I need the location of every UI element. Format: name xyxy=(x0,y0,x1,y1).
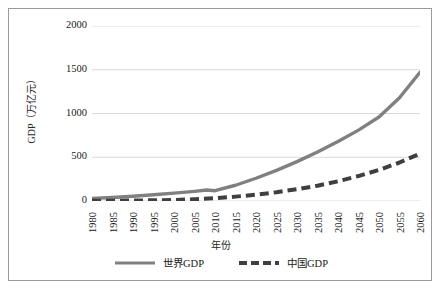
x-tick-label: 2035 xyxy=(312,206,323,240)
chart-legend: 世界GDP中国GDP xyxy=(9,255,433,270)
chart-frame: GDP（万亿元） 0500100015002000 19801985199019… xyxy=(8,8,432,281)
x-tick-label: 2025 xyxy=(271,206,282,240)
x-tick-label: 2005 xyxy=(189,206,200,240)
x-tick-label: 2015 xyxy=(230,206,241,240)
x-axis-title: 年份 xyxy=(9,237,433,252)
x-tick-label: 2010 xyxy=(210,206,221,240)
y-tick-label: 0 xyxy=(47,195,87,206)
legend-item[interactable]: 中国GDP xyxy=(238,255,328,270)
y-axis-tick-labels: 0500100015002000 xyxy=(45,9,87,229)
x-tick-label: 1985 xyxy=(107,206,118,240)
x-tick-label: 2040 xyxy=(333,206,344,240)
legend-item[interactable]: 世界GDP xyxy=(114,255,204,270)
x-tick-label: 2055 xyxy=(394,206,405,240)
series-line-world-gdp xyxy=(92,72,420,198)
legend-swatch-world-gdp xyxy=(114,258,156,268)
y-tick-label: 1500 xyxy=(47,64,87,75)
x-tick-label: 1980 xyxy=(87,206,98,240)
legend-label: 中国GDP xyxy=(287,255,328,270)
legend-label: 世界GDP xyxy=(163,255,204,270)
x-tick-label: 2000 xyxy=(169,206,180,240)
y-tick-label: 500 xyxy=(47,151,87,162)
x-tick-label: 2050 xyxy=(374,206,385,240)
y-axis-title: GDP（万亿元） xyxy=(23,44,38,174)
chart-plot-svg xyxy=(92,26,420,201)
plot-area xyxy=(92,26,420,201)
x-tick-label: 2045 xyxy=(353,206,364,240)
y-tick-label: 1000 xyxy=(47,108,87,119)
y-tick-label: 2000 xyxy=(47,20,87,31)
x-tick-label: 1990 xyxy=(128,206,139,240)
x-tick-label: 2060 xyxy=(415,206,426,240)
x-tick-label: 2020 xyxy=(251,206,262,240)
x-tick-label: 1995 xyxy=(148,206,159,240)
x-tick-label: 2030 xyxy=(292,206,303,240)
legend-swatch-china-gdp xyxy=(238,258,280,268)
x-axis-tick-labels: 1980198519901995200020052010201520202025… xyxy=(92,201,420,241)
